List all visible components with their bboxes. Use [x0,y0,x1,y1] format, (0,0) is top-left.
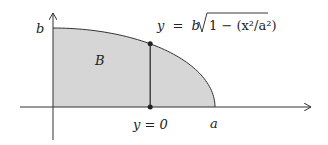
equation-equals: = [173,18,184,33]
curve-equation: y = b 1 − (x²/a²) [156,13,276,33]
shaded-region-b [53,28,215,107]
label-a: a [210,116,218,131]
slice-base-label: y = 0 [132,117,168,132]
equation-coef: b [192,18,200,33]
equation-radicand: 1 − (x²/a²) [209,18,276,33]
label-b: b [36,21,44,36]
slice-top-point [148,41,153,46]
svg-text:y = b: y = b [156,18,200,33]
slice-bottom-point [148,105,153,110]
region-label-b: B [94,53,105,68]
ellipse-region-diagram: b a B y = 0 y = b 1 − (x²/a²) [0,0,328,145]
equation-lhs: y [156,18,165,33]
slice-base-text: y = 0 [132,117,168,132]
